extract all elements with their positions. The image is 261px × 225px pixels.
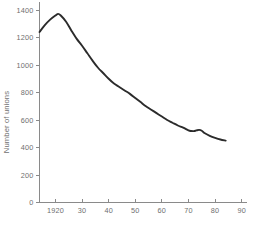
- x-tick-label: 1920: [47, 206, 64, 215]
- data-series-line: [40, 14, 226, 141]
- x-tick-label: 50: [131, 206, 140, 215]
- x-tick-label: 80: [211, 206, 220, 215]
- y-tick-label: 400: [21, 143, 34, 152]
- y-tick-label: 1400: [16, 6, 33, 15]
- y-tick-label: 1000: [16, 61, 33, 70]
- chart-figure: 02004006008001000120014001600 1920304050…: [0, 0, 261, 225]
- x-tick-label: 40: [104, 206, 113, 215]
- y-tick-label: 800: [21, 88, 34, 97]
- x-axis: 192030405060708090: [40, 199, 248, 215]
- x-tick-label: 90: [237, 206, 246, 215]
- y-tick-label: 200: [21, 171, 34, 180]
- y-axis-title: Number of unions: [2, 91, 11, 153]
- x-tick-group: 192030405060708090: [47, 199, 246, 215]
- line-chart: 02004006008001000120014001600 1920304050…: [0, 0, 261, 225]
- y-tick-group: 02004006008001000120014001600: [16, 0, 39, 207]
- y-axis: 02004006008001000120014001600: [16, 0, 39, 207]
- x-tick-label: 60: [158, 206, 167, 215]
- y-tick-label: 1200: [16, 33, 33, 42]
- y-tick-label: 0: [29, 198, 33, 207]
- x-tick-label: 70: [184, 206, 193, 215]
- x-tick-label: 30: [78, 206, 87, 215]
- y-tick-label: 600: [21, 116, 34, 125]
